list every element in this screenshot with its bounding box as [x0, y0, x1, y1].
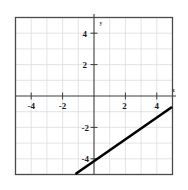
linear-graph-figure: -4 -2 2 4 4 2 -2 -4 y x	[0, 0, 188, 190]
x-tick-label-4: 4	[155, 101, 160, 111]
x-tick-label-2: 2	[122, 101, 127, 111]
x-tick-label-minus2: -2	[59, 101, 67, 111]
y-axis-label: y	[100, 20, 103, 26]
x-tick-label-minus4: -4	[27, 101, 35, 111]
coordinate-plane: -4 -2 2 4 4 2 -2 -4 y x	[0, 0, 188, 190]
y-tick-label-2: 2	[83, 60, 88, 70]
y-tick-label-minus4: -4	[82, 154, 90, 164]
y-tick-label-4: 4	[83, 29, 88, 39]
x-axis-label: x	[172, 87, 175, 93]
y-tick-label-minus2: -2	[82, 123, 90, 133]
